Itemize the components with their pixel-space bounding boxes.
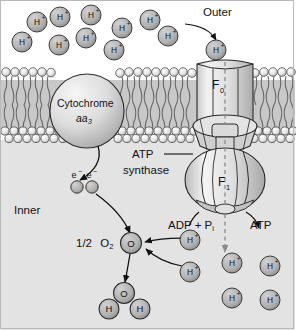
proton-label: H (119, 23, 125, 33)
proton-charge: + (195, 232, 199, 239)
electron-charge: − (78, 168, 82, 175)
proton-charge: + (173, 28, 177, 35)
proton-label: H (147, 15, 153, 25)
cytochrome-subunit-label: aa3 (76, 113, 92, 126)
proton-label: H (165, 31, 171, 41)
proton-charge: + (195, 264, 199, 271)
adp-pi-text: ADP + P (168, 219, 212, 231)
f1-sublabel: 1 (226, 183, 230, 192)
proton-label: H (213, 45, 219, 55)
proton-label: H (83, 33, 89, 43)
proton-charge: + (275, 292, 279, 299)
proton-charge: + (119, 42, 123, 49)
f0-label: F (212, 78, 219, 92)
proton-label: H (187, 267, 193, 277)
water-hydrogen-label: H (137, 303, 144, 314)
water-hydrogen-label: H (106, 303, 113, 314)
proton-label: H (267, 295, 273, 305)
proton-label: H (111, 45, 117, 55)
oxygen-coefficient: 1/2 (76, 237, 92, 249)
atp-synthase-label-line2: synthase (123, 164, 169, 176)
f0-sublabel: 0 (220, 86, 224, 95)
proton-label: H (57, 12, 63, 22)
proton-charge: + (27, 34, 31, 41)
proton-label: H (229, 258, 235, 268)
electron-label: e (86, 170, 91, 180)
cytochrome-subunit-text: aa (76, 112, 88, 124)
half-oxygen-label: 1/2 O2 (76, 237, 113, 251)
proton-label: H (267, 261, 273, 271)
proton-label: H (34, 17, 40, 27)
proton-charge: + (96, 7, 100, 14)
proton-charge: + (237, 255, 241, 262)
oxygen-atom-label: O (127, 238, 134, 249)
protein-subunit-labels: F 0 F 1 (212, 78, 230, 192)
atp-label: ATP (250, 219, 272, 231)
inner-label: Inner (14, 204, 40, 216)
proton-charge: + (221, 42, 225, 49)
oxygen-subscript: 2 (109, 242, 113, 251)
outer-label: Outer (203, 6, 232, 18)
f1-label: F (218, 175, 225, 189)
atp-synthase-label-line1: ATP (132, 148, 154, 160)
electron-charge: − (93, 168, 97, 175)
proton-charge: + (65, 9, 69, 16)
cytochrome-subunit-number: 3 (88, 117, 92, 126)
proton-charge: + (64, 37, 68, 44)
proton-charge: + (155, 12, 159, 19)
proton-label: H (56, 40, 62, 50)
proton-label: H (229, 293, 235, 303)
electron-labels: e − e − (71, 168, 97, 180)
water-oxygen-label: O (120, 288, 127, 299)
figure-container: H + H + H + H + H + H + H + H + H + H + (0, 0, 296, 331)
proton-charge: + (91, 30, 95, 37)
proton-label: H (187, 235, 193, 245)
adp-pi-subscript: i (212, 224, 214, 233)
proton-charge: + (127, 20, 131, 27)
proton-charge: + (275, 258, 279, 265)
adp-pi-label: ADP + Pi (168, 219, 214, 233)
proton-labels-outer: H + H + H + H + H + H + H + H + H + H + (19, 7, 225, 55)
cytochrome-name-label: Cytochrome (57, 98, 114, 109)
proton-labels-inner: H + H + H + H + H + H + (187, 232, 279, 305)
proton-charge: + (42, 14, 46, 21)
electron-label: e (71, 170, 76, 180)
proton-label: H (88, 10, 94, 20)
proton-charge: + (237, 290, 241, 297)
proton-label: H (19, 37, 25, 47)
oxygen-formula: O (100, 237, 109, 249)
